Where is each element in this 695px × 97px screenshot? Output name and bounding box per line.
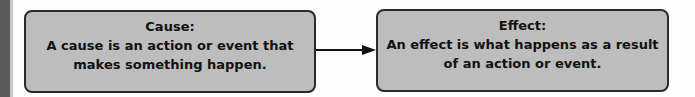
cause-description: A cause is an action or event that makes…: [26, 36, 314, 74]
effect-title: Effect:: [378, 16, 667, 35]
effect-box: Effect: An effect is what happens as a r…: [376, 9, 669, 92]
cause-title: Cause:: [26, 17, 314, 36]
effect-description: An effect is what happens as a result of…: [378, 35, 667, 73]
page-edge-dark: [0, 0, 10, 97]
page-edge-light: [10, 0, 13, 97]
arrow-right-icon: [316, 45, 376, 55]
cause-box: Cause: A cause is an action or event tha…: [24, 10, 316, 93]
